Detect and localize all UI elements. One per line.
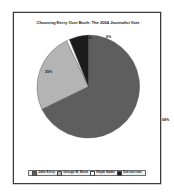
legend-item-did-not-vote: Did not vote: [117, 171, 141, 176]
pie-label-kerry: 68%: [162, 118, 169, 122]
legend-item-bush: George W. Bush: [57, 171, 87, 176]
chart-legend: John Kerry George W. Bush Ralph Nader Di…: [28, 170, 146, 176]
chart-frame: Choosing Kerry Over Bush: The 2004 Journ…: [13, 12, 161, 184]
legend-swatch-bush: [57, 171, 62, 176]
pie-label-did-not-vote: 6%: [106, 35, 111, 39]
legend-item-nader: Ralph Nader: [90, 171, 115, 176]
legend-swatch-kerry: [32, 171, 37, 176]
legend-swatch-did-not-vote: [117, 171, 122, 176]
pie-label-nader: 1%: [87, 36, 92, 40]
pie-wrap: 68% 25% 1% 6%: [36, 34, 141, 139]
pie-label-bush: 25%: [45, 70, 52, 74]
screenshot-root: Choosing Kerry Over Bush: The 2004 Journ…: [0, 0, 174, 194]
pie-plot-area: 68% 25% 1% 6%: [14, 33, 160, 161]
legend-label-did-not-vote: Did not vote: [123, 171, 141, 174]
legend-label-bush: George W. Bush: [63, 171, 88, 174]
chart-title: Choosing Kerry Over Bush: The 2004 Journ…: [18, 20, 158, 25]
legend-label-nader: Ralph Nader: [96, 171, 115, 174]
legend-label-kerry: John Kerry: [38, 171, 55, 174]
legend-item-kerry: John Kerry: [32, 171, 55, 176]
legend-swatch-nader: [90, 171, 95, 176]
pie-chart: [36, 34, 141, 139]
